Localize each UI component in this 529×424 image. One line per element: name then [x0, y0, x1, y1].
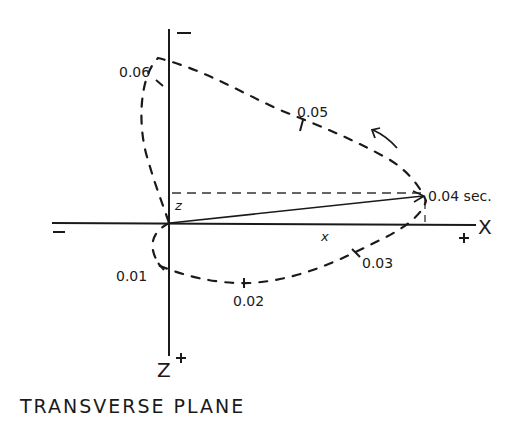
rotation-direction-arrow [372, 128, 397, 148]
horizontal-axis-x [52, 223, 476, 225]
transverse-plane-vector-loop-diagram: 0.01 0.02 0.03 0.04 sec. 0.05 0.06 z x X… [0, 0, 529, 424]
label-time-0.04: 0.04 sec. [428, 188, 492, 204]
tick-0.05 [300, 120, 303, 131]
x-component-label: x [320, 229, 329, 244]
z-component-label: z [174, 198, 183, 213]
label-time-0.03: 0.03 [362, 255, 393, 271]
diagram-title: TRANSVERSE PLANE [19, 395, 245, 417]
label-time-0.05: 0.05 [297, 104, 328, 120]
label-time-0.06: 0.06 [119, 64, 150, 80]
x-axis-name: X [478, 215, 492, 239]
tick-0.06 [156, 80, 163, 86]
z-axis-name: Z [157, 358, 171, 382]
label-time-0.02: 0.02 [233, 293, 264, 309]
label-time-0.01: 0.01 [116, 268, 147, 284]
projection-lines [172, 193, 425, 222]
instantaneous-vector [170, 191, 424, 223]
time-ticks [156, 80, 360, 288]
vector-loop-path [141, 58, 426, 283]
